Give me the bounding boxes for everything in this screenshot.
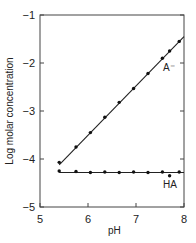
y-tick-label: −5 bbox=[22, 201, 35, 213]
data-point bbox=[58, 169, 61, 172]
data-point bbox=[103, 170, 106, 173]
data-point bbox=[161, 57, 164, 60]
y-tick-labels: −1−2−3−4−5 bbox=[22, 9, 35, 213]
data-point bbox=[146, 171, 149, 174]
fit-line-0 bbox=[59, 37, 184, 165]
data-point bbox=[146, 72, 149, 75]
data-points bbox=[58, 40, 181, 178]
data-point bbox=[132, 170, 135, 173]
x-tick-labels: 5678 bbox=[37, 213, 187, 225]
y-axis-label: Log molar concentration bbox=[4, 57, 15, 164]
x-tick-label: 8 bbox=[181, 213, 187, 225]
data-point bbox=[168, 174, 171, 177]
y-tick-label: −3 bbox=[22, 105, 35, 117]
y-tick-label: −1 bbox=[22, 9, 35, 21]
data-point bbox=[89, 131, 92, 134]
data-point bbox=[178, 40, 181, 43]
data-point bbox=[58, 161, 61, 164]
data-point bbox=[178, 170, 181, 173]
y-tick-label: −4 bbox=[22, 153, 35, 165]
fit-lines bbox=[59, 37, 184, 173]
x-tick-label: 6 bbox=[85, 213, 91, 225]
data-point bbox=[132, 87, 135, 90]
data-point bbox=[89, 171, 92, 174]
data-point bbox=[74, 170, 77, 173]
data-point bbox=[118, 101, 121, 104]
x-tick-label: 5 bbox=[37, 213, 43, 225]
data-point bbox=[118, 171, 121, 174]
data-point bbox=[103, 116, 106, 119]
data-point bbox=[161, 170, 164, 173]
y-tick-label: −2 bbox=[22, 57, 35, 69]
x-axis-label: pH bbox=[108, 225, 121, 236]
series-label-ha: HA bbox=[163, 179, 177, 190]
data-point bbox=[74, 145, 77, 148]
x-tick-label: 7 bbox=[133, 213, 139, 225]
series-label-a-minus: A⁻ bbox=[163, 62, 175, 73]
data-point bbox=[168, 49, 171, 52]
chart: −1−2−3−4−5 5678 A⁻ HA pH Log molar conce… bbox=[0, 0, 196, 243]
